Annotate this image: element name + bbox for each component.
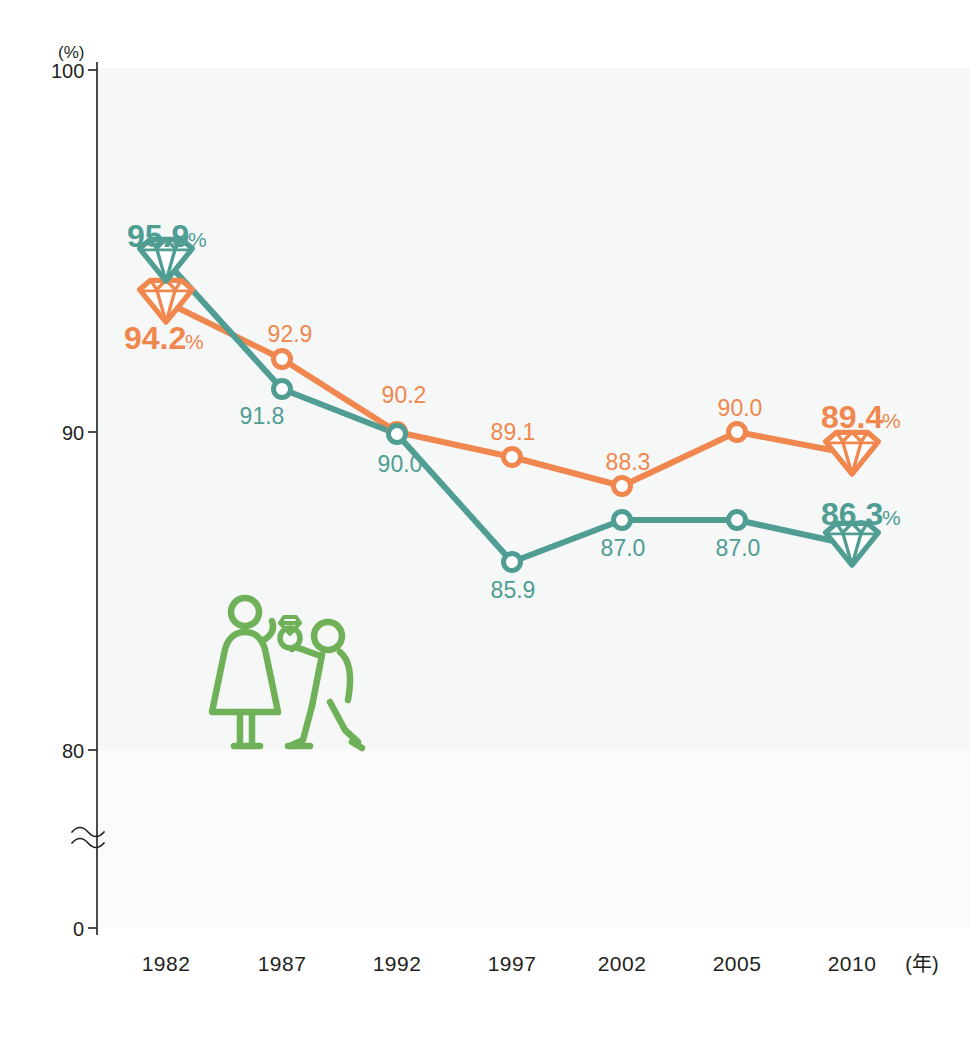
x-tick-label-1997: 1997	[488, 952, 537, 975]
orange-value-label-2010: 89.4	[821, 399, 883, 435]
orange-value-label-1997: 89.1	[491, 419, 536, 445]
orange-value-label-1992: 90.2	[382, 382, 427, 408]
x-tick-label-2010: 2010	[828, 952, 877, 975]
x-tick-label-2005: 2005	[713, 952, 762, 975]
x-tick-label-1987: 1987	[258, 952, 307, 975]
teal-value-label-2005: 87.0	[716, 535, 761, 561]
orange-point-marker-2002	[614, 478, 631, 495]
marriage-rate-line-chart: (%) 100 90 80 0	[0, 0, 979, 1037]
teal-value-label-1987: 91.8	[240, 403, 285, 429]
orange-value-unit-1982: %	[185, 330, 204, 353]
y-tick-label-100: 100	[51, 60, 84, 82]
orange-value-unit-2010: %	[882, 409, 901, 432]
teal-point-marker-1997	[504, 554, 521, 571]
teal-value-label-1982: 95.9	[127, 218, 189, 254]
teal-point-marker-1987	[274, 381, 291, 398]
orange-value-label-1987: 92.9	[268, 321, 313, 347]
y-tick-label-0: 0	[73, 918, 84, 940]
x-axis-unit-label: (年)	[905, 953, 938, 975]
orange-point-marker-2005	[729, 424, 746, 441]
teal-value-label-2010: 86.3	[821, 496, 883, 532]
teal-value-unit-2010: %	[882, 506, 901, 529]
orange-value-label-2005: 90.0	[718, 395, 763, 421]
teal-value-label-1992: 90.0	[378, 451, 423, 477]
teal-value-unit-1982: %	[188, 228, 207, 251]
chart-root: (%) 100 90 80 0	[0, 0, 979, 1037]
y-tick-label-90: 90	[62, 422, 84, 444]
teal-value-label-1997: 85.9	[491, 577, 536, 603]
x-tick-label-2002: 2002	[598, 952, 647, 975]
teal-point-marker-2005	[729, 512, 746, 529]
orange-value-label-2002: 88.3	[606, 449, 651, 475]
y-tick-label-80: 80	[62, 740, 84, 762]
teal-point-marker-1992	[389, 426, 406, 443]
plot-area-background-lower	[97, 750, 970, 928]
teal-value-label-2002: 87.0	[601, 535, 646, 561]
orange-point-marker-1987	[274, 351, 291, 368]
x-tick-label-1992: 1992	[373, 952, 422, 975]
x-tick-label-1982: 1982	[142, 952, 191, 975]
orange-point-marker-1997	[504, 449, 521, 466]
teal-point-marker-2002	[614, 512, 631, 529]
orange-value-label-1982: 94.2	[124, 320, 186, 356]
